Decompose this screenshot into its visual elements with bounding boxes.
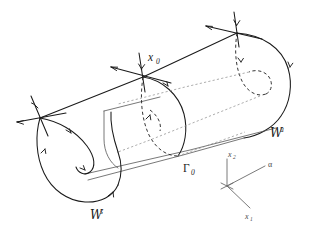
axis-alpha-line	[227, 166, 265, 186]
flow-arrow-scroll-inner	[80, 166, 85, 170]
inner-tube-connector	[178, 132, 245, 156]
flow-arrowheads	[41, 58, 293, 197]
label-gamma0-subscript: 0	[191, 168, 195, 177]
label-x0-subscript: 0	[156, 57, 160, 66]
axis-label-x1-sub: 1	[250, 216, 253, 222]
label-gamma0-base: Γ	[183, 162, 190, 174]
right-cross-stroke-vertical	[234, 12, 239, 47]
stable-scroll-fold-top	[104, 97, 160, 111]
axis-label-x2: x	[227, 150, 232, 159]
stable-scroll-right-wall	[118, 152, 121, 185]
right-cross-stroke-left	[206, 26, 262, 39]
axis-x1-line	[227, 186, 250, 208]
flow-arrow-cap-back	[238, 58, 243, 62]
stable-manifold-scroll	[37, 97, 160, 202]
flow-arrow-cap-outer	[288, 62, 293, 67]
tube-body	[40, 33, 290, 180]
axis-label-alpha: α	[268, 160, 273, 169]
inner-tube-bottom-edge	[118, 96, 260, 152]
label-w-unstable: W u	[270, 125, 284, 140]
label-x0-base: x	[147, 51, 154, 63]
label-x0: x 0	[147, 51, 160, 66]
tube-cap-top-edge	[237, 33, 288, 68]
label-w-stable-superscript: s	[100, 207, 103, 216]
stable-scroll-inner-hook	[40, 118, 94, 174]
right-cross-arrowhead-down	[234, 20, 240, 26]
label-w-unstable-superscript: u	[280, 125, 284, 134]
cross-marker-left	[17, 96, 66, 136]
axis-label-x1: x	[244, 212, 249, 221]
x0-cross-stroke-vertical	[139, 53, 145, 92]
flow-arrow-mid-back	[146, 115, 151, 120]
inner-tube-top-edge	[118, 72, 249, 104]
invariant-manifold-diagram: x 0 Γ 0 W s W u x 2 α x 1	[0, 0, 315, 231]
label-gamma0: Γ 0	[183, 162, 195, 177]
cross-marker-right	[206, 12, 262, 47]
unstable-cap-back-arc	[236, 33, 266, 95]
axis-triad	[221, 159, 265, 208]
midsection-front-arc	[143, 77, 186, 156]
stable-scroll-inner-edge	[111, 112, 118, 152]
figure-root: x 0 Γ 0 W s W u x 2 α x 1	[0, 0, 315, 231]
tube-top-ridge	[40, 33, 237, 118]
axis-label-x2-sub: 2	[233, 154, 236, 160]
flow-arrow-stable-left	[41, 149, 46, 154]
axis-labels: x 2 α x 1	[227, 150, 273, 222]
tube-bottom-ridge	[88, 138, 244, 180]
label-w-stable: W s	[90, 207, 104, 222]
stable-scroll-outer	[37, 118, 118, 202]
left-cross-arrowhead-left	[17, 121, 24, 125]
unstable-cap-inner-hook	[249, 71, 271, 94]
midsection-back-arc	[141, 77, 178, 156]
midsection-inner-scroll	[150, 110, 160, 131]
